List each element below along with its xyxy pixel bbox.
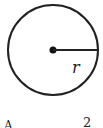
circle-diagram bbox=[0, 0, 103, 128]
formula-exponent: 2 bbox=[83, 115, 91, 128]
formula-a: A bbox=[4, 119, 13, 128]
radius-label: r bbox=[72, 58, 80, 77]
